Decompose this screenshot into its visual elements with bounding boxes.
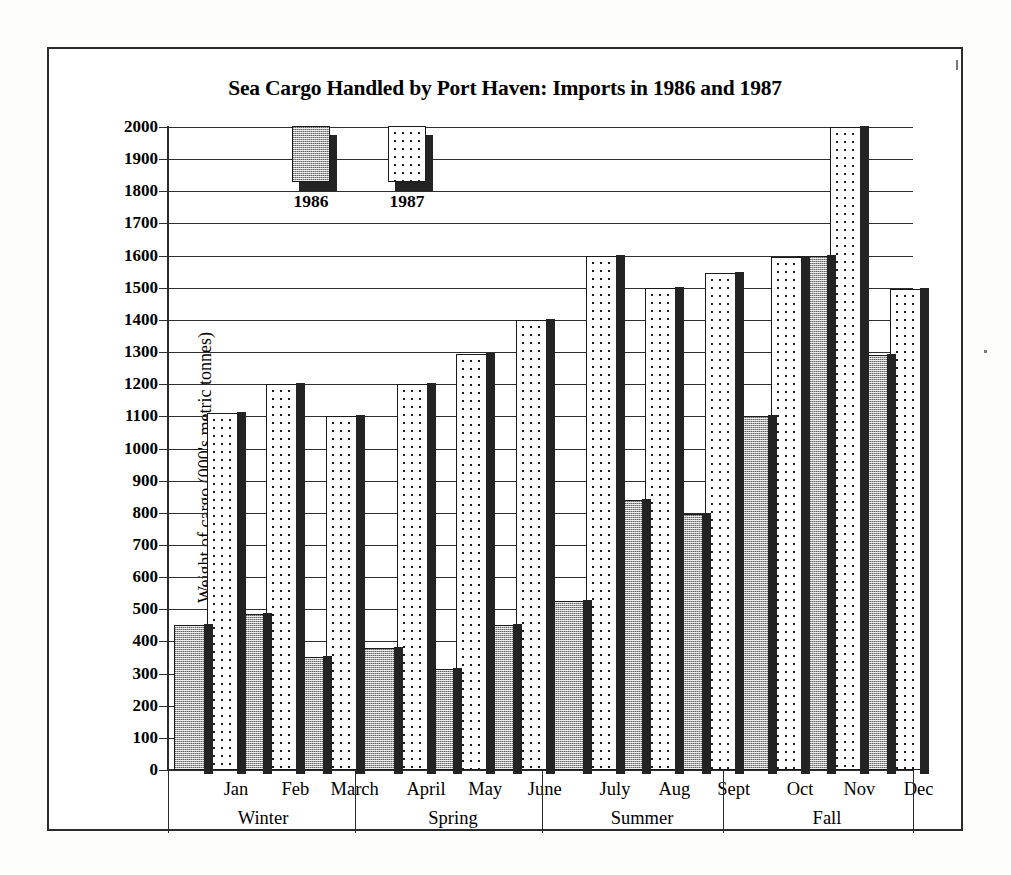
bar-shadow [323,656,332,774]
legend-label-1986: 1986 [276,191,346,212]
x-axis-season-label: Spring [353,808,553,829]
y-axis-tick-labels: 2000190018001700160015001400130012001100… [100,127,158,770]
y-axis-line [167,126,169,771]
bar-shadow [860,126,869,774]
bar-shadow [887,354,896,774]
y-axis-tick-label: 2000 [100,118,158,135]
bar-shadow [513,624,522,774]
y-axis-tick-label: 1700 [100,214,158,231]
bar-shadow [237,412,246,774]
y-axis-tick-label: 0 [100,761,158,778]
x-axis-month-label: June [513,779,577,800]
gridline [168,223,913,224]
bar-shadow [486,353,495,774]
y-axis-tick-label: 1000 [100,440,158,457]
scanned-page: Sea Cargo Handled by Port Haven: Imports… [0,0,1011,875]
season-divider [355,771,356,833]
bar-shadow [546,319,555,774]
bar-shadow [296,383,305,774]
gridline [168,159,913,160]
legend-swatch-1987 [388,126,426,182]
y-axis-tick-label: 600 [100,568,158,585]
y-axis-tick-label: 700 [100,536,158,553]
x-axis-month-label: Oct [768,779,832,800]
x-axis-month-label: April [394,779,458,800]
gridline [168,127,913,128]
x-axis-season-label: Fall [727,808,927,829]
bar-shadow [675,287,684,774]
bar-shadow [920,288,929,774]
bar-shadow [735,272,744,774]
x-axis-month-label: July [583,779,647,800]
y-axis-tick-label: 1500 [100,279,158,296]
legend-label-1987: 1987 [372,191,442,212]
bar-shadow [453,668,462,774]
bar-shadow [204,624,213,774]
bar-july-1986 [553,601,584,770]
x-axis-month-label: Sept [702,779,766,800]
bar-april-1986 [364,648,395,770]
y-axis-tick-label: 300 [100,665,158,682]
bar-shadow [263,613,272,774]
bar-shadow [427,383,436,774]
bar-shadow [642,499,651,774]
bar-shadow [616,255,625,774]
plot-area: Weight of cargo (000's metric tonnes) [168,127,913,770]
bar-shadow [827,255,836,774]
y-axis-tick-label: 1800 [100,182,158,199]
legend-swatch-1986 [292,126,330,182]
x-axis-month-label: Jan [204,779,268,800]
season-divider [168,771,169,833]
bar-shadow [394,647,403,774]
x-axis-month-label: Dec [887,779,951,800]
y-axis-tick-label: 1400 [100,311,158,328]
y-axis-tick-label: 1100 [100,407,158,424]
bar-shadow [801,256,810,774]
y-axis-tick-label: 1600 [100,247,158,264]
bar-shadow [583,600,592,774]
x-axis-month-label: May [453,779,517,800]
bar-shadow [702,513,711,774]
y-axis-tick-label: 800 [100,504,158,521]
scan-speck [984,350,987,353]
x-axis-month-label: Feb [263,779,327,800]
season-divider [723,771,724,833]
y-axis-tick-label: 500 [100,600,158,617]
y-axis-tick-label: 100 [100,729,158,746]
scan-speck [956,60,958,70]
y-axis-tick-label: 200 [100,697,158,714]
y-axis-tick-label: 1900 [100,150,158,167]
chart-title: Sea Cargo Handled by Port Haven: Imports… [60,76,950,101]
bar-shadow [768,415,777,774]
y-axis-tick-label: 1300 [100,343,158,360]
y-axis-tick-label: 400 [100,632,158,649]
bar-jan-1986 [174,625,205,770]
x-axis-month-label: Aug [642,779,706,800]
bar-shadow [356,415,365,774]
season-divider [913,771,914,833]
x-axis-month-label: Nov [827,779,891,800]
x-axis-season-label: Summer [542,808,742,829]
y-axis-tick-label: 1200 [100,375,158,392]
season-divider [542,771,543,833]
y-axis-tick-label: 900 [100,472,158,489]
x-axis-season-label: Winter [163,808,363,829]
